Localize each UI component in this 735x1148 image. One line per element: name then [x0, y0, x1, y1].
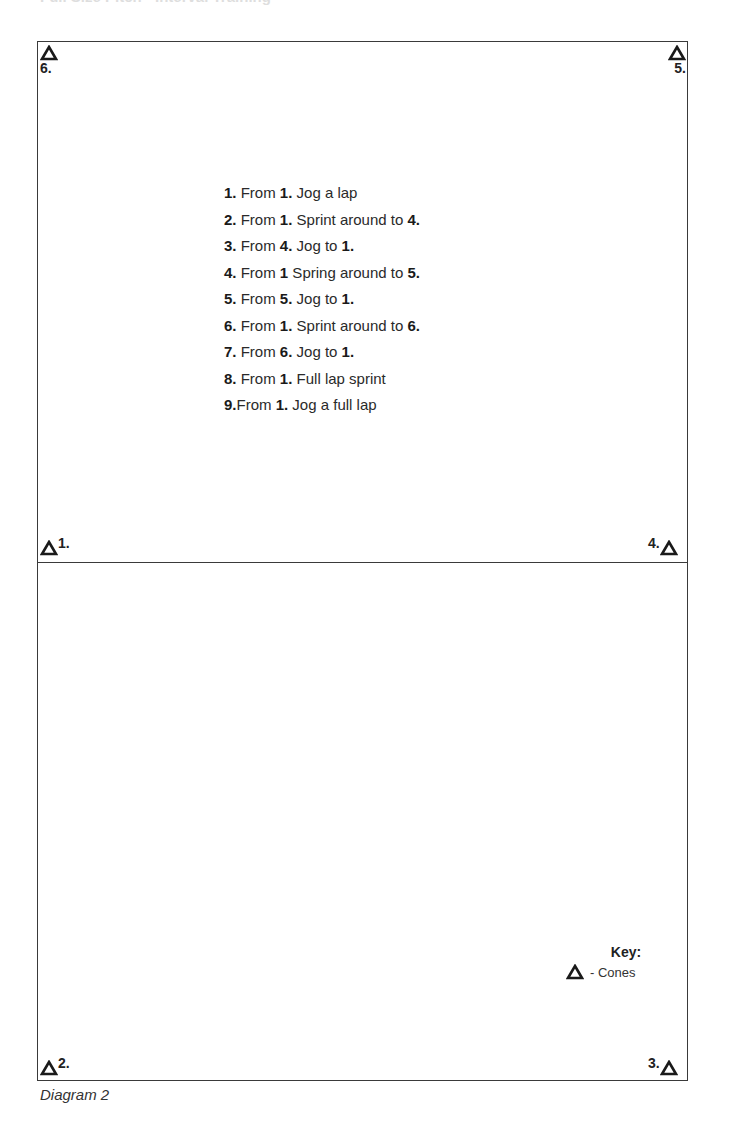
cone-triangle-icon — [660, 540, 678, 556]
cone-marker-4: 4. — [648, 540, 678, 556]
instruction-item: 8. From 1. Full lap sprint — [224, 366, 420, 393]
instruction-item: 9.From 1. Jog a full lap — [224, 392, 420, 419]
cone-triangle-icon — [566, 964, 584, 980]
cone-triangle-icon — [40, 540, 58, 556]
instruction-item: 3. From 4. Jog to 1. — [224, 233, 420, 260]
cone-triangle-icon — [668, 45, 686, 61]
cone-marker-2: 2. — [40, 1060, 70, 1076]
cone-label: 3. — [648, 1055, 660, 1071]
cone-marker-1: 1. — [40, 540, 70, 556]
halfway-line — [37, 562, 688, 563]
instruction-item: 4. From 1 Spring around to 5. — [224, 260, 420, 287]
cone-label: 4. — [648, 535, 660, 551]
cone-marker-6: 6. — [40, 45, 58, 75]
diagram-caption: Diagram 2 — [40, 1086, 109, 1103]
legend-title: Key: — [566, 944, 666, 960]
page-header-clipped: Full Size Pitch - Interval Training — [40, 0, 271, 5]
legend-key: Key: - Cones — [566, 944, 666, 980]
instruction-item: 2. From 1. Sprint around to 4. — [224, 207, 420, 234]
cone-marker-3: 3. — [648, 1060, 678, 1076]
cone-marker-5: 5. — [668, 45, 686, 75]
legend-entry-label: - Cones — [590, 965, 636, 980]
cone-label: 2. — [58, 1055, 70, 1071]
drill-instructions-list: 1. From 1. Jog a lap 2. From 1. Sprint a… — [224, 180, 420, 419]
legend-entry-cones: - Cones — [566, 964, 666, 980]
cone-label: 1. — [58, 535, 70, 551]
instruction-item: 1. From 1. Jog a lap — [224, 180, 420, 207]
cone-label: 5. — [674, 60, 686, 76]
cone-triangle-icon — [40, 1060, 58, 1076]
instruction-item: 7. From 6. Jog to 1. — [224, 339, 420, 366]
cone-label: 6. — [40, 60, 52, 76]
cone-triangle-icon — [40, 45, 58, 61]
cone-triangle-icon — [660, 1060, 678, 1076]
instruction-item: 5. From 5. Jog to 1. — [224, 286, 420, 313]
instruction-item: 6. From 1. Sprint around to 6. — [224, 313, 420, 340]
